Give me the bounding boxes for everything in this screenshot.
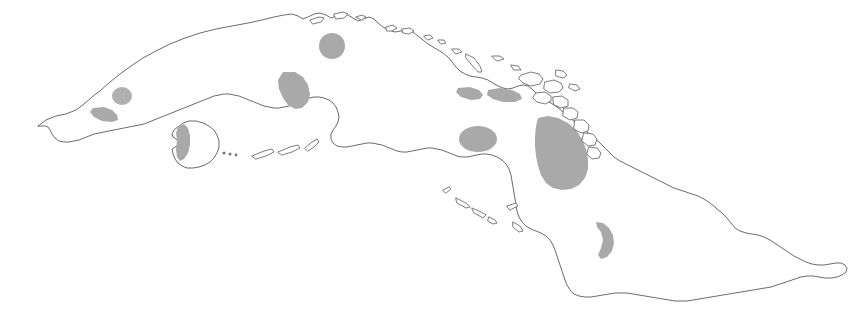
cay-group-jardines-de-la-reina [443,187,523,232]
cay-shape [488,217,497,224]
cay-shape [443,187,451,193]
cay-shape [569,84,580,91]
map-figure [0,0,866,319]
cay-shape [424,35,433,40]
region-guanahacabibes [112,87,132,105]
cay-shape [513,222,523,232]
cay-shape [472,208,486,218]
cay-shape [252,149,274,159]
cay-shape [519,72,543,86]
cay-shape [511,65,521,70]
land-layer [38,13,847,301]
main-island [38,13,847,301]
cay-shape [452,49,462,54]
cay-shape [456,198,470,208]
cay-shape [386,25,397,31]
cay-shape [544,80,563,93]
cay-shape [305,139,319,151]
cay-dot [222,151,225,154]
cay-shape [438,40,446,44]
region-central-south-oval [459,126,497,152]
cuba-map-svg [0,0,866,319]
cay-shape [466,54,482,72]
region-havana [319,33,345,59]
cay-group-canarreos [222,139,319,159]
cay-shape [278,145,300,155]
cay-dot [229,153,232,156]
cay-shape [492,56,504,61]
cay-shape [556,70,567,78]
cay-dot [235,154,238,157]
